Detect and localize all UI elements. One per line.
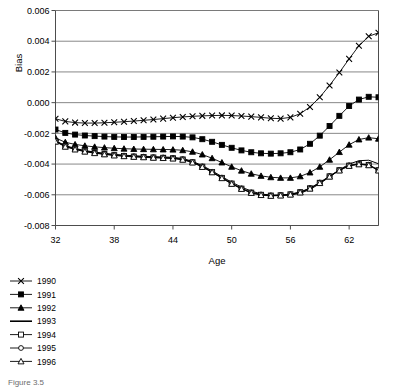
marker-square-filled [337, 113, 342, 118]
legend-label-1991: 1991 [37, 290, 56, 300]
y-axis-title: Bias [13, 54, 24, 73]
marker-square-filled [141, 134, 146, 139]
marker-circle-open [19, 346, 24, 351]
marker-square-filled [53, 127, 58, 132]
marker-square-filled [180, 134, 185, 139]
marker-square-filled [239, 148, 244, 153]
marker-square-filled [151, 134, 156, 139]
legend-item-1995[interactable] [10, 346, 32, 351]
marker-square-filled [73, 132, 78, 137]
marker-square-filled [268, 151, 273, 156]
y-tick-label: 0.000 [27, 98, 50, 108]
figure-caption: Figure 3.5 [8, 378, 45, 387]
marker-square-filled [170, 134, 175, 139]
x-axis-ticks [56, 226, 350, 230]
y-tick-label: 0.006 [27, 6, 50, 16]
figure-caption-text: Figure 3.5 [8, 378, 45, 387]
marker-square-filled [219, 142, 224, 147]
x-axis-title: Age [209, 255, 226, 266]
y-tick-label: -0.004 [24, 159, 50, 169]
x-tick-label: 50 [227, 235, 237, 245]
marker-square-filled [327, 123, 332, 128]
marker-square-filled [82, 133, 87, 138]
x-tick-label: 32 [50, 235, 60, 245]
marker-square-filled [112, 134, 117, 139]
marker-square-filled [259, 151, 264, 156]
marker-square-filled [102, 134, 107, 139]
marker-square-filled [249, 150, 254, 155]
legend: 1990199119921993199419951996 [10, 276, 56, 366]
marker-square-filled [307, 141, 312, 146]
legend-item-1996[interactable] [10, 358, 32, 363]
chart-figure: 0.0060.0040.0020.000-0.002-0.004-0.006-0… [0, 0, 398, 387]
marker-square-filled [278, 151, 283, 156]
legend-label-1994: 1994 [37, 330, 56, 340]
marker-square-filled [131, 135, 136, 140]
y-axis-ticks [52, 11, 56, 226]
marker-square-filled [298, 147, 303, 152]
bias-vs-age-line-chart: 0.0060.0040.0020.000-0.002-0.004-0.006-0… [0, 0, 398, 387]
y-tick-label: -0.002 [24, 129, 50, 139]
plot-background [56, 11, 379, 226]
marker-square-filled [161, 134, 166, 139]
marker-square-filled [190, 135, 195, 140]
x-tick-label: 62 [344, 235, 354, 245]
marker-square-filled [356, 97, 361, 102]
marker-square-filled [288, 150, 293, 155]
legend-item-1992[interactable] [10, 305, 32, 310]
y-tick-label: 0.004 [27, 36, 50, 46]
legend-label-1995: 1995 [37, 343, 56, 353]
marker-square-filled [19, 292, 24, 297]
x-tick-label: 56 [285, 235, 295, 245]
marker-square-filled [63, 130, 68, 135]
legend-item-1991[interactable] [10, 292, 32, 297]
legend-label-1993: 1993 [37, 316, 56, 326]
legend-label-1990: 1990 [37, 276, 56, 286]
marker-square-filled [366, 94, 371, 99]
x-tick-label: 38 [109, 235, 119, 245]
legend-label-1996: 1996 [37, 357, 56, 367]
legend-item-1990[interactable] [10, 278, 32, 284]
marker-square-filled [92, 134, 97, 139]
marker-square-filled [347, 104, 352, 109]
y-tick-label: -0.008 [24, 221, 50, 231]
marker-square-filled [200, 137, 205, 142]
y-tick-label: 0.002 [27, 67, 50, 77]
marker-square-open [19, 332, 24, 337]
y-tick-label: -0.006 [24, 190, 50, 200]
marker-square-filled [376, 95, 381, 100]
x-tick-label: 44 [168, 235, 178, 245]
legend-label-1992: 1992 [37, 303, 56, 313]
legend-item-1994[interactable] [10, 332, 32, 337]
marker-square-filled [229, 145, 234, 150]
marker-square-filled [317, 133, 322, 138]
marker-square-filled [210, 139, 215, 144]
marker-square-filled [122, 135, 127, 140]
